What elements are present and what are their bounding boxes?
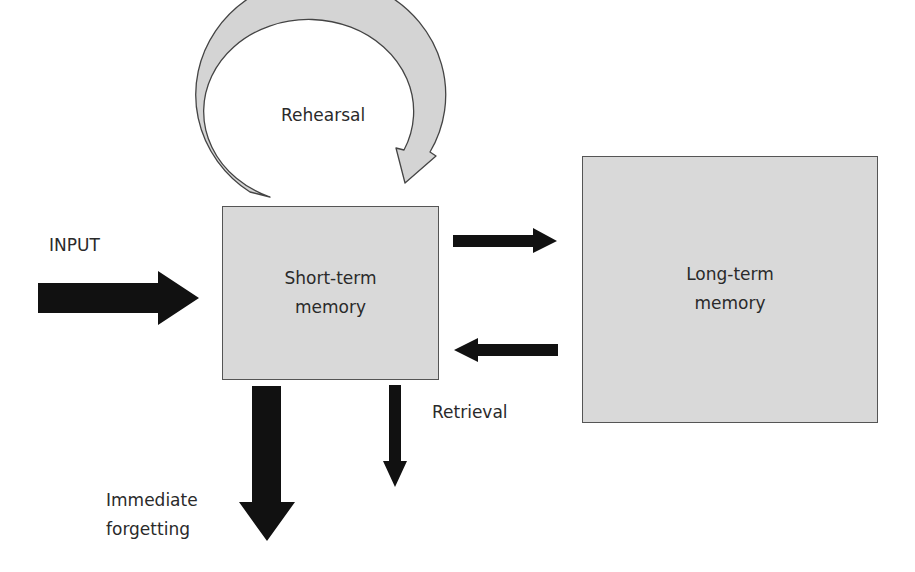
long-term-memory-box: Long-term memory (582, 156, 878, 423)
retrieval-arrow (383, 385, 407, 487)
input-arrow (38, 271, 199, 325)
stm-to-ltm-arrow (453, 228, 557, 253)
short-term-memory-box: Short-term memory (222, 206, 439, 380)
forgetting-label-line1: Immediate (106, 486, 198, 515)
short-term-memory-label-line1: Short-term (284, 264, 376, 293)
forgetting-label-line2: forgetting (106, 515, 190, 544)
input-label: INPUT (49, 231, 100, 260)
short-term-memory-label-line2: memory (284, 293, 376, 322)
forgetting-arrow (239, 386, 295, 541)
long-term-memory-label-line2: memory (686, 289, 774, 318)
retrieval-label: Retrieval (432, 398, 508, 427)
rehearsal-loop-arrow (196, 0, 446, 197)
long-term-memory-label-line1: Long-term (686, 260, 774, 289)
ltm-to-stm-arrow (454, 338, 558, 362)
rehearsal-label: Rehearsal (281, 101, 365, 130)
